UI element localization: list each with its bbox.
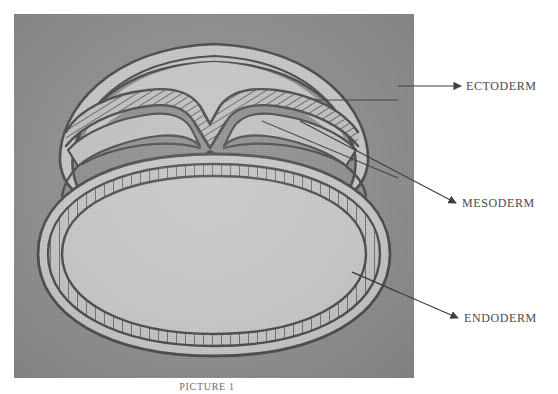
- label-endoderm: ENDODERM: [464, 311, 537, 326]
- embryo-cross-section-drawing: [14, 14, 414, 378]
- figure-caption: PICTURE 1: [0, 381, 414, 392]
- embryo-diagram-plate: [14, 14, 414, 378]
- yolk-sac-and-endoderm: [38, 154, 390, 356]
- yolk-sac-cavity: [64, 178, 364, 332]
- label-mesoderm: MESODERM: [462, 196, 535, 211]
- label-ectoderm: ECTODERM: [466, 79, 537, 94]
- figure-root: ECTODERM MESODERM ENDODERM PICTURE 1: [0, 0, 558, 394]
